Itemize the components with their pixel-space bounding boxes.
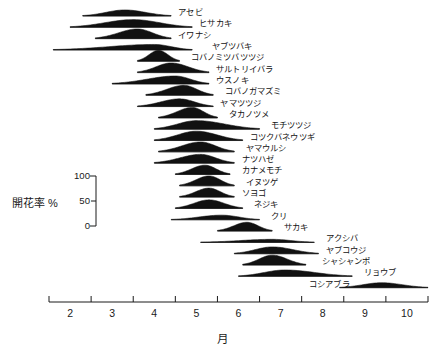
species-label: サルトリイバラ [216,65,273,74]
species-curve [70,20,192,28]
species-label: シャシャンポ [322,257,371,266]
species-curve [243,255,306,265]
x-tick-label: 2 [56,307,84,319]
species-label: アクシバ [326,234,358,243]
species-label: イヌツゲ [246,178,278,187]
x-tick-label: 4 [140,307,168,319]
species-label: ヒサカキ [199,19,231,28]
species-label: コバノガマズミ [225,87,282,96]
species-label: コシアブラ [309,280,350,289]
species-label: タカノツメ [229,110,270,119]
species-curve [137,99,213,107]
species-label: ソヨゴ [242,189,266,198]
species-label: ヤブコウジ [326,246,367,255]
species-curve [154,131,242,140]
species-curve [95,29,171,39]
x-axis-title: 月 [217,330,228,346]
x-tick-label: 6 [225,307,253,319]
species-label: カナメモチ [242,166,283,175]
y-scale-bracket [90,176,96,226]
species-label: ナツハゼ [242,155,274,164]
species-curve [201,239,315,242]
species-label: アセビ [178,8,202,17]
species-curve [180,176,235,186]
y-tick-label-0: 0 [58,220,90,231]
species-label: ヤブツバキ [212,42,253,51]
species-label: ウスノキ [216,76,248,85]
species-curve [217,222,272,231]
x-tick-label: 10 [393,307,421,319]
species-label: コツクバネウツギ [250,133,315,142]
y-tick-label-50: 50 [58,195,90,206]
species-curve [180,188,235,197]
species-curve [234,247,318,254]
species-curve [53,44,192,50]
species-label: イワナシ [178,31,210,40]
x-tick-label: 9 [351,307,379,319]
x-axis [49,296,428,302]
flowering-period-chart: アセビヒサカキイワナシヤブツバキコバノミツバツツジサルトリイバラウスノキコバノガ… [0,0,441,351]
species-label: クリ [271,212,287,221]
species-curve [137,63,209,73]
species-curve [158,107,217,117]
species-curve [239,270,353,276]
species-curve [340,283,428,288]
species-curve [154,154,234,163]
y-axis-label: 開花率 % [12,194,58,210]
species-label: コバノミツバツツジ [191,53,264,62]
species-curve [146,85,213,95]
species-curve [175,165,230,174]
species-curve [83,10,171,16]
species-label: リョウブ [364,268,396,277]
species-curve [158,142,234,152]
species-label: ヤマツツジ [220,99,261,108]
species-curve [171,215,259,220]
x-tick-label: 7 [267,307,295,319]
species-label: ネジキ [254,200,278,209]
species-label: ヤマウルシ [246,144,287,153]
species-curve [154,121,259,130]
species-label: モチツツジ [271,121,312,130]
species-curve [112,76,209,84]
x-tick-label: 3 [98,307,126,319]
x-tick-label: 5 [182,307,210,319]
species-curve [137,50,179,61]
x-tick-label: 8 [309,307,337,319]
y-tick-label-100: 100 [58,170,90,181]
species-label: サカキ [284,223,308,232]
species-curve [175,200,242,209]
